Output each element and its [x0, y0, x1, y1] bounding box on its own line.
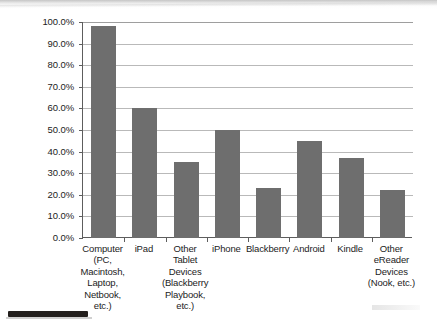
plot-area	[82, 22, 412, 238]
x-axis-tick-mark	[248, 238, 249, 242]
x-axis-tick-labels: Computer (PC, Macintosh, Laptop, Netbook…	[82, 243, 412, 319]
y-axis-tick-label: 60.0%	[0, 103, 74, 113]
bar	[132, 108, 157, 238]
y-axis-tick-label: 20.0%	[0, 190, 74, 200]
bar	[380, 190, 405, 238]
bar	[297, 141, 322, 238]
x-axis-tick-mark	[372, 238, 373, 242]
x-axis-tick-mark	[207, 238, 208, 242]
y-axis-tick-label: 40.0%	[0, 147, 74, 157]
scan-bottom-edge-artifact	[8, 311, 88, 317]
x-axis-tick-mark	[289, 238, 290, 242]
y-axis-tick-label: 90.0%	[0, 39, 74, 49]
y-axis-tick-label: 100.0%	[0, 17, 74, 27]
bar	[174, 162, 199, 238]
x-axis-tick-mark	[331, 238, 332, 242]
x-axis-tick-mark	[166, 238, 167, 242]
y-axis-tick-label: 70.0%	[0, 82, 74, 92]
scan-right-smudge-artifact	[372, 305, 420, 310]
bar-series	[83, 22, 413, 238]
x-axis-tick-label: Other eReader Devices (Nook, etc.)	[365, 243, 418, 289]
y-axis-tick-label: 0.0%	[0, 233, 74, 243]
y-axis-tick-label: 80.0%	[0, 60, 74, 70]
y-axis-tick-label: 30.0%	[0, 168, 74, 178]
x-axis-tick-mark	[124, 238, 125, 242]
bar	[215, 130, 240, 238]
bar	[91, 26, 116, 238]
bar	[256, 188, 281, 238]
y-axis-tick-label: 10.0%	[0, 211, 74, 221]
y-axis-tick-mark	[79, 238, 83, 239]
bar	[339, 158, 364, 238]
y-axis-tick-label: 50.0%	[0, 125, 74, 135]
bar-chart: 100.0%90.0%80.0%70.0%60.0%50.0%40.0%30.0…	[0, 0, 437, 322]
